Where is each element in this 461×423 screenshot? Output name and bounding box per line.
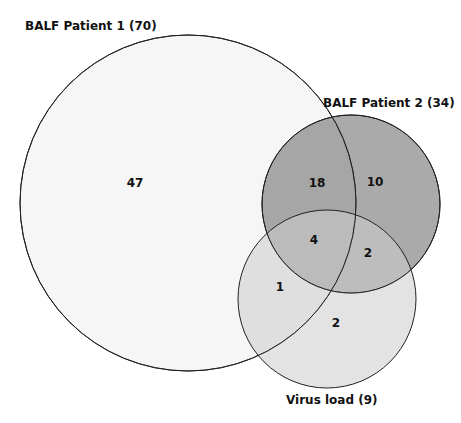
venn-diagram: BALF Patient 1 (70) BALF Patient 2 (34) …: [0, 0, 461, 423]
region-count-p2-only: 10: [367, 175, 384, 189]
region-count-p1-virus: 1: [276, 280, 284, 294]
set-label-balf-patient-1: BALF Patient 1 (70): [25, 19, 157, 33]
region-count-all-three: 4: [310, 233, 318, 247]
region-count-p1-only: 47: [127, 176, 144, 190]
set-circle-virus-load: [238, 210, 416, 388]
set-label-balf-patient-2: BALF Patient 2 (34): [323, 96, 455, 110]
region-count-virus-only: 2: [332, 316, 340, 330]
region-count-p1-p2: 18: [309, 176, 326, 190]
set-label-virus-load: Virus load (9): [286, 393, 378, 407]
region-count-p2-virus: 2: [364, 246, 372, 260]
